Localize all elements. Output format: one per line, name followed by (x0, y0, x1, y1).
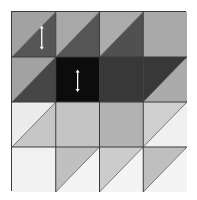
grid-cell (12, 102, 56, 147)
grid-cell (12, 12, 56, 57)
cell-fill (100, 57, 144, 102)
cell-fill (12, 147, 56, 192)
grid-cell (12, 57, 56, 102)
grid-cell (56, 12, 100, 57)
grid-cell (100, 147, 144, 192)
grid-cell (12, 147, 56, 192)
grid-cell (143, 102, 187, 147)
cell-fill (56, 102, 100, 147)
grid-cell (143, 12, 187, 57)
grid-cell (100, 57, 144, 102)
grid-cell (56, 147, 100, 192)
grid-cell (143, 147, 187, 192)
grid-cell (56, 102, 100, 147)
grid-cell (100, 12, 144, 57)
grid-drawing (12, 12, 187, 192)
shaded-grid (11, 11, 186, 191)
grid-cell (100, 102, 144, 147)
cell-fill (100, 102, 144, 147)
figure-canvas (0, 0, 197, 200)
grid-cell (143, 57, 187, 102)
cell-fill (143, 12, 187, 57)
